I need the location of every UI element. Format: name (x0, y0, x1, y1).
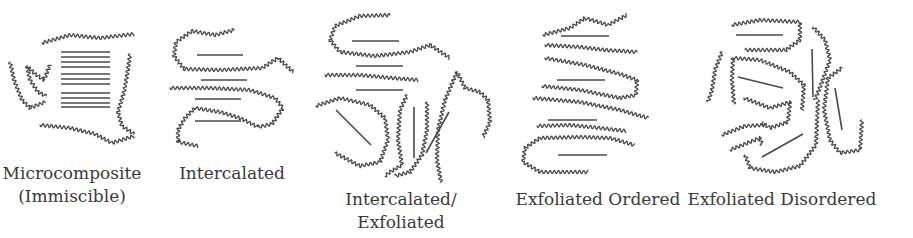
polymer-chain (40, 124, 134, 145)
polymer-chain (744, 98, 792, 130)
label-line: (Immiscible) (3, 185, 142, 208)
label-intercalated-exfoliated: Intercalated/ Exfoliated (345, 188, 456, 234)
label-line: Intercalated/ (345, 188, 456, 211)
polymer-chain (730, 137, 763, 152)
label-line: Exfoliated Ordered (516, 188, 681, 211)
panel-exfoliated-ordered (522, 14, 649, 174)
clay-platelet (738, 77, 783, 88)
polymer-chain (533, 97, 648, 119)
polymer-chain (117, 54, 134, 134)
polymer-chain (540, 135, 634, 146)
nanocomposite-morphology-figure: Microcomposite (Immiscible) Intercalated… (0, 0, 913, 238)
label-intercalated: Intercalated (179, 162, 285, 185)
clay-platelet (336, 110, 371, 145)
polymer-chain (42, 33, 134, 45)
polymer-chain (707, 52, 723, 102)
panel-intercalated (170, 29, 293, 148)
clay-platelet (762, 134, 803, 157)
polymer-chain (823, 67, 864, 154)
polymer-chain (172, 29, 293, 73)
polymer-chain (744, 100, 820, 173)
polymer-chain (329, 13, 449, 59)
label-exfoliated-ordered: Exfoliated Ordered (516, 188, 681, 211)
polymer-chain (722, 124, 765, 137)
polymer-chain (316, 97, 389, 168)
polymer-chain (395, 102, 429, 177)
label-line: Microcomposite (3, 162, 142, 185)
polymer-chain (385, 95, 407, 177)
polymer-chain (542, 85, 620, 100)
polymer-chain (730, 58, 735, 104)
polymer-chain (436, 72, 458, 182)
label-line: Intercalated (179, 162, 285, 185)
clay-platelet (812, 49, 813, 97)
label-exfoliated-disordered: Exfoliated Disordered (688, 188, 877, 211)
clay-platelet (835, 88, 842, 130)
panel-exfoliated-disordered (707, 18, 864, 173)
polymer-chain (543, 14, 626, 37)
label-line: Exfoliated Disordered (688, 188, 877, 211)
polymer-chain (537, 124, 626, 133)
label-microcomposite: Microcomposite (Immiscible) (3, 162, 142, 208)
panel-microcomposite (9, 33, 135, 144)
panel-intercalated-exfoliated (316, 13, 492, 182)
polymer-chain (733, 57, 805, 111)
polymer-chain (545, 43, 637, 53)
polymer-chain (9, 62, 46, 109)
label-line: Exfoliated (345, 211, 456, 234)
polymer-chain (325, 73, 418, 81)
polymer-chain (176, 107, 258, 148)
polymer-chain (456, 72, 492, 138)
